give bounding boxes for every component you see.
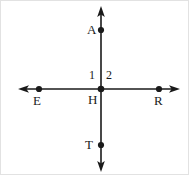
point-marker-e: [36, 86, 42, 92]
point-marker-r: [156, 86, 162, 92]
point-label-r: R: [154, 94, 163, 107]
angle-label-2: 2: [106, 69, 112, 81]
point-marker-t: [98, 142, 104, 148]
point-marker-a: [98, 27, 104, 33]
geometry-figure: A E R T H 1 2: [0, 0, 189, 175]
point-label-e: E: [33, 94, 41, 107]
angle-label-1: 1: [89, 69, 95, 81]
point-label-t: T: [85, 138, 93, 151]
point-label-a: A: [87, 23, 96, 36]
point-marker-h: [98, 86, 105, 93]
point-label-h: H: [88, 93, 97, 106]
point-markers: [36, 27, 162, 148]
